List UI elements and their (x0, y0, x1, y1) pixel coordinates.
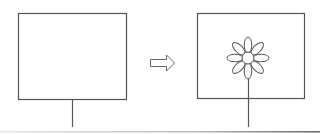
petal (244, 63, 252, 79)
flower-frame-group (198, 14, 305, 128)
petal (253, 54, 269, 62)
petal (227, 54, 243, 62)
bottom-rule (0, 131, 320, 133)
flower-center (242, 52, 254, 64)
empty-frame-group (19, 14, 127, 128)
empty-frame (19, 14, 127, 100)
transformation-diagram (0, 0, 320, 134)
flower-icon (227, 37, 269, 79)
petal (244, 37, 252, 53)
right-arrow-icon (151, 55, 175, 71)
